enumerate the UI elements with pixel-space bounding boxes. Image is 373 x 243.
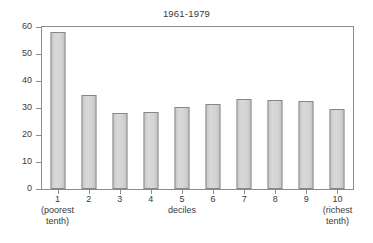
x-axis-tick-label: 10 [322, 194, 353, 204]
bar [268, 100, 283, 189]
chart-figure: 1961-1979 0102030405060 1(poorest tenth)… [0, 0, 373, 243]
bar [237, 99, 252, 189]
bar-series [42, 27, 353, 189]
x-axis-tick-label: 6 [198, 194, 229, 204]
x-axis-tick-label: 7 [229, 194, 260, 204]
bar-slot [104, 27, 135, 189]
y-axis: 0102030405060 [0, 26, 41, 190]
bar-slot [198, 27, 229, 189]
bar [81, 95, 96, 190]
x-axis-sublabel: (richest tenth) [306, 205, 369, 226]
x-axis-tick-label: 2 [73, 194, 104, 204]
chart-title: 1961-1979 [0, 8, 373, 19]
bar [206, 104, 221, 189]
x-axis-sublabel: (poorest tenth) [26, 205, 89, 226]
x-axis: 1(poorest tenth)2345deciles678910(riches… [42, 190, 353, 243]
bar-slot [73, 27, 104, 189]
bar-slot [291, 27, 322, 189]
x-axis-tick-label: 8 [260, 194, 291, 204]
bar [112, 113, 127, 189]
bar [330, 109, 345, 189]
y-axis-tick-label: 40 [22, 75, 32, 85]
bar-slot [42, 27, 73, 189]
y-axis-tick-label: 10 [22, 156, 32, 166]
bar [299, 101, 314, 189]
x-axis-tick-label: 5 [166, 194, 197, 204]
x-axis-tick-label: 1 [42, 194, 73, 204]
y-axis-tick-label: 20 [22, 129, 32, 139]
bar-slot [135, 27, 166, 189]
y-axis-tick-label: 60 [22, 21, 32, 31]
x-axis-tick-label: 9 [291, 194, 322, 204]
bar [143, 112, 158, 189]
x-axis-title: deciles [144, 205, 219, 215]
y-axis-tick-label: 30 [22, 102, 32, 112]
x-axis-tick-label: 3 [104, 194, 135, 204]
bar [50, 32, 65, 189]
bar [174, 107, 189, 189]
y-axis-tick-label: 0 [27, 183, 32, 193]
x-axis-tick-label: 4 [135, 194, 166, 204]
y-axis-tick-label: 50 [22, 48, 32, 58]
bar-slot [229, 27, 260, 189]
bar-slot [322, 27, 353, 189]
bar-slot [166, 27, 197, 189]
bar-slot [260, 27, 291, 189]
